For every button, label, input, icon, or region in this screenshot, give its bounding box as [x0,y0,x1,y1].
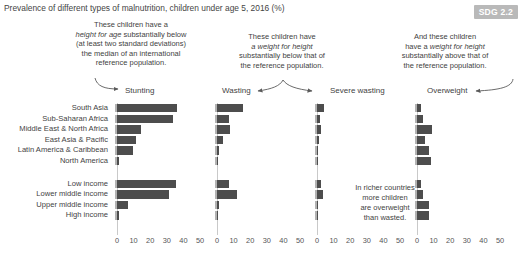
bar-row [417,114,517,125]
axis-tick-label: 40 [379,236,387,245]
row-label-list: South AsiaSub-Saharan AfricaMiddle East … [0,103,112,221]
bar-row [117,135,217,146]
bar [117,211,119,219]
panel-heading-overweight: Overweight [427,86,467,95]
bar [417,136,425,144]
bar [317,201,318,209]
annotation-stunting-line5: reference population. [96,58,166,67]
annotation-wasting-line1: These children have [248,32,316,41]
bar-row [117,114,217,125]
status-badge: SDG 2.2 [474,5,518,19]
bar-row [117,103,217,114]
axis-tick-label: 0 [315,236,319,245]
bar [217,146,219,154]
annotation-overweight-line2: weight for height [430,42,485,51]
bar [417,115,423,123]
axis-tick-label: 0 [115,236,119,245]
bar [217,104,243,112]
bar-row [317,124,417,135]
bar [117,157,119,165]
x-axis-group: 0102030405001020304050010203040500102030… [117,236,521,250]
panel-heading-severe-wasting: Severe wasting [330,86,385,95]
x-axis: 01020304050 [417,236,517,250]
bar [117,125,141,133]
bar [317,136,319,144]
bar [317,146,318,154]
axis-tick-label: 10 [229,236,237,245]
bar [217,157,218,165]
bar [217,125,230,133]
axis-tick-label: 20 [346,236,354,245]
annotation-wasting: These children have a weight for height … [212,32,352,70]
axis-tick-label: 40 [479,236,487,245]
bar-row [117,124,217,135]
bar-group [417,103,517,221]
bar [317,115,320,123]
annotation-wasting-line2: a weight for height [251,42,312,51]
annotation-stunting-line3: (at least two standard deviations) [76,39,186,48]
annotation-overweight-line4: the reference population. [404,61,487,70]
bar [117,190,169,198]
annotation-stunting-line1: These children have a [94,20,168,29]
annotation-stunting: These children have a height for age sub… [52,20,210,68]
bar-row [217,200,317,211]
annotation-overweight: And these children have a weight for hei… [372,32,518,70]
row-group-separator [317,167,417,179]
row-label: South Asia [0,103,112,114]
annotation-stunting-line4: the median of an international [82,49,181,58]
row-label: Middle East & North Africa [0,124,112,135]
bar-row [217,145,317,156]
bar [217,201,219,209]
bar [217,190,237,198]
row-group-separator [117,167,217,179]
axis-tick-label: 10 [429,236,437,245]
row-label: Low income [0,179,112,190]
page-title: Prevalence of different types of malnutr… [4,3,285,13]
bar-row [417,189,517,200]
axis-tick-label: 30 [463,236,471,245]
chart-panel-severe-wasting [317,103,417,235]
axis-tick-label: 20 [446,236,454,245]
bar-row [117,179,217,190]
bar [217,136,223,144]
annotation-stunting-line2: height for age [76,30,122,39]
bar [117,146,133,154]
x-axis: 01020304050 [317,236,417,250]
bar-row [117,145,217,156]
bar-row [217,124,317,135]
bar-row [417,200,517,211]
axis-tick-label: 50 [196,236,204,245]
row-group-separator [217,167,317,179]
axis-tick-label: 50 [496,236,504,245]
bar-row [417,179,517,190]
axis-tick-label: 10 [129,236,137,245]
bar [417,211,429,219]
bar-row [217,135,317,146]
bar-row [417,135,517,146]
bar-row [317,135,417,146]
bar-row [317,103,417,114]
bar [117,201,128,209]
chart-panel-stunting [117,103,217,235]
bar [217,211,218,219]
bar [317,190,323,198]
bar [417,104,421,112]
bar [117,180,176,188]
panel-heading-stunting: Stunting [125,86,154,95]
x-axis: 01020304050 [217,236,317,250]
axis-tick-label: 0 [415,236,419,245]
row-label: Upper middle income [0,200,112,211]
bar-row [217,114,317,125]
bar [117,115,173,123]
axis-tick-label: 20 [246,236,254,245]
bar-row [417,145,517,156]
annotation-wasting-line4: the reference population. [241,61,324,70]
chart-panel-wasting [217,103,317,235]
bar-row [317,114,417,125]
row-label: Latin America & Caribbean [0,145,112,156]
bar [217,180,229,188]
bar [317,125,321,133]
bar [317,157,318,165]
bar-row [317,210,417,221]
row-label: Lower middle income [0,189,112,200]
